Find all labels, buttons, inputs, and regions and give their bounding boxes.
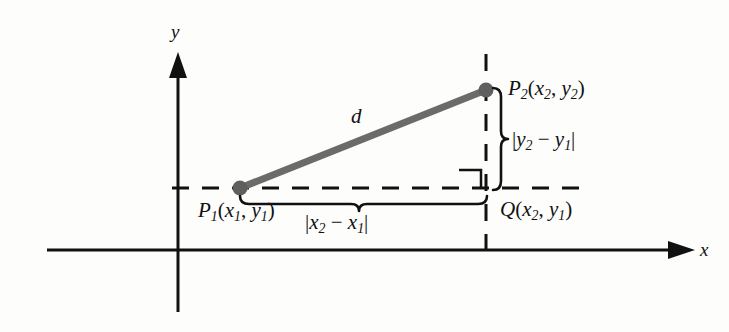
q-x: x xyxy=(522,197,531,221)
p1-y-sub: 1 xyxy=(261,209,268,224)
q-y: y xyxy=(549,197,558,221)
p2-name: P xyxy=(508,76,521,100)
point-p2-dot xyxy=(479,83,494,98)
p2-y: y xyxy=(562,76,571,100)
p1-y: y xyxy=(252,198,261,222)
p1-x-sub: 1 xyxy=(234,209,241,224)
dx-a: x xyxy=(309,210,318,234)
p1-paren-close: ) xyxy=(268,198,275,222)
dx-minus: − xyxy=(325,210,347,234)
p2-comma: , xyxy=(551,76,562,100)
delta-y-label: |y2 − y1| xyxy=(512,129,575,153)
p1-name: P xyxy=(198,198,211,222)
p1-paren-open: ( xyxy=(218,198,225,222)
q-paren-close: ) xyxy=(565,197,572,221)
figure-canvas: y x d P2(x2, y2) P1(x1, y1) Q(x2, y1) |y… xyxy=(0,0,729,332)
q-comma: , xyxy=(538,197,549,221)
vertical-brace xyxy=(493,88,508,190)
dx-b: x xyxy=(348,210,357,234)
dy-a: y xyxy=(516,127,525,151)
p2-x: x xyxy=(535,76,544,100)
point-p2-label: P2(x2, y2) xyxy=(508,78,585,102)
y-axis-arrowhead xyxy=(169,52,187,78)
point-p1-label: P1(x1, y1) xyxy=(198,200,275,224)
y-axis-label: y xyxy=(171,22,179,41)
q-name: Q xyxy=(500,197,515,221)
p1-sub: 1 xyxy=(211,209,218,224)
distance-label: d xyxy=(351,106,362,127)
right-angle-marker xyxy=(459,170,481,188)
x-axis-arrowhead xyxy=(668,241,695,259)
dy-bar-close: | xyxy=(571,127,575,151)
p2-x-sub: 2 xyxy=(544,87,551,102)
dy-b: y xyxy=(555,127,564,151)
p2-paren-open: ( xyxy=(528,76,535,100)
x-axis-label: x xyxy=(700,240,708,259)
point-p1-dot xyxy=(233,181,248,196)
delta-x-label: |x2 − x1| xyxy=(305,212,368,236)
p2-paren-close: ) xyxy=(578,76,585,100)
point-q-label: Q(x2, y1) xyxy=(500,199,572,223)
distance-segment xyxy=(240,90,486,188)
dy-minus: − xyxy=(532,127,554,151)
diagram-svg xyxy=(0,0,729,332)
p1-comma: , xyxy=(241,198,252,222)
p2-y-sub: 2 xyxy=(571,87,578,102)
p2-sub: 2 xyxy=(521,87,528,102)
p1-x: x xyxy=(225,198,234,222)
horizontal-brace xyxy=(240,196,487,211)
dx-bar-close: | xyxy=(364,210,368,234)
